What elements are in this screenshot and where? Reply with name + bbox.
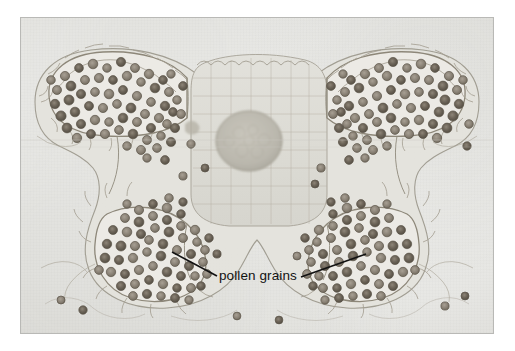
pollen-grains-label: pollen grains — [219, 268, 297, 284]
anther-tissue-drawing — [21, 18, 493, 333]
anther-micrograph — [21, 18, 493, 333]
figure-page: pollen grains — [0, 0, 515, 351]
vascular-bundle — [216, 111, 282, 171]
